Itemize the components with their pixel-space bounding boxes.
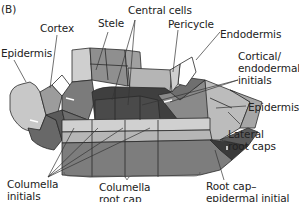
label-central-cells: Central cells — [128, 4, 192, 16]
label-rootcap-epi-line1: Root cap– — [206, 180, 256, 192]
label-cortical-line3: initials — [238, 74, 272, 86]
label-columella-initials-line1: Columella — [7, 178, 58, 190]
epidermis-cell-left — [10, 82, 46, 131]
label-columella-initials-line2: initials — [7, 190, 41, 202]
leader-cortex — [50, 35, 57, 88]
root-tip-diagram: (B) Cortex Stele Central cells Pericycle… — [0, 0, 299, 202]
label-columella-rootcap-line2: root cap — [99, 193, 141, 202]
leader-endodermis — [196, 32, 220, 60]
label-pericycle: Pericycle — [168, 18, 214, 30]
cortex-column — [72, 48, 92, 82]
label-cortical-line2: endodermal — [238, 62, 299, 74]
label-columella-rootcap-line1: Columella — [99, 181, 150, 193]
label-rootcap-epi-line2: epidermal initial — [206, 192, 289, 202]
stele-column — [90, 48, 128, 86]
label-cortex: Cortex — [40, 22, 74, 34]
label-epidermis-left: Epidermis — [1, 47, 52, 59]
label-lateral-line1: Lateral — [228, 128, 264, 140]
label-cortical-line1: Cortical/ — [238, 50, 281, 62]
label-stele: Stele — [98, 17, 124, 29]
panel-label: (B) — [1, 3, 16, 15]
label-endodermis: Endodermis — [220, 28, 281, 40]
central-cells-upper — [95, 96, 160, 120]
label-epidermis-right: Epidermis — [248, 101, 299, 113]
columella-root-cap — [62, 140, 232, 177]
leader-epidermis-left — [14, 60, 26, 82]
label-lateral-line2: root caps — [228, 140, 276, 152]
